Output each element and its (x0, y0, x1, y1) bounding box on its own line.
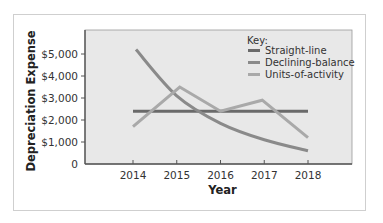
legend-label: Straight-line (265, 45, 327, 56)
legend-label: Units-of-activity (265, 69, 344, 80)
y-tick-label: 0 (71, 158, 78, 170)
x-tick-label: 2017 (251, 169, 278, 181)
x-tick-label: 2015 (163, 169, 190, 181)
y-tick-label: $3,000 (41, 92, 78, 104)
y-tick-label: $5,000 (41, 48, 78, 60)
y-tick-label: $2,000 (41, 114, 78, 126)
x-tick-label: 2014 (120, 169, 147, 181)
legend-label: Declining-balance (265, 57, 355, 68)
y-tick-label: $4,000 (41, 70, 78, 82)
x-tick-label: 2016 (207, 169, 234, 181)
x-axis-title: Year (207, 183, 237, 197)
y-axis-ticks: 0$1,000$2,000$3,000$4,000$5,000 (41, 48, 85, 170)
x-tick-label: 2018 (295, 169, 322, 181)
y-axis-title: Depreciation Expense (24, 30, 38, 171)
depreciation-chart: 0$1,000$2,000$3,000$4,000$5,000 20142015… (0, 0, 383, 223)
y-tick-label: $1,000 (41, 136, 78, 148)
